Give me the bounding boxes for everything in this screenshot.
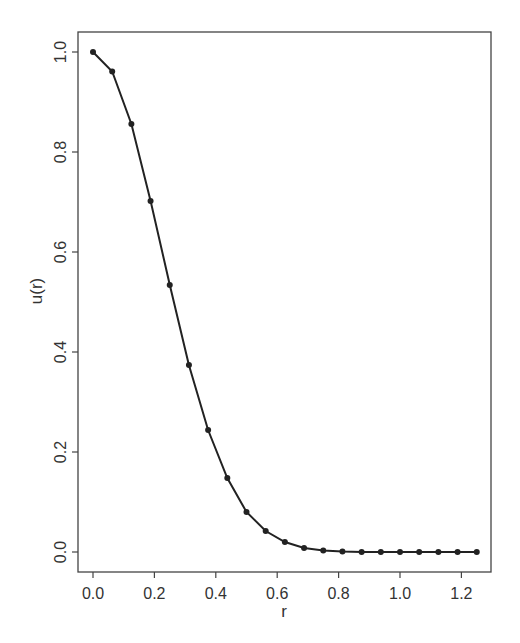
data-point	[359, 549, 365, 555]
data-point	[320, 548, 326, 554]
y-tick-label: 0.0	[52, 541, 69, 563]
y-axis-label: u(r)	[27, 278, 46, 304]
data-point	[263, 528, 269, 534]
x-tick-label: 0.0	[82, 585, 104, 602]
plot-frame	[78, 32, 491, 572]
data-series-line	[93, 52, 477, 552]
data-point	[378, 549, 384, 555]
data-point	[128, 121, 134, 127]
y-tick-label: 0.4	[52, 341, 69, 363]
data-point	[224, 475, 230, 481]
x-axis-label: r	[281, 602, 287, 621]
x-tick-label: 0.2	[143, 585, 165, 602]
y-tick-label: 0.8	[52, 141, 69, 163]
data-point	[148, 198, 154, 204]
data-point	[167, 282, 173, 288]
data-point	[90, 49, 96, 55]
data-point	[455, 549, 461, 555]
data-point	[397, 549, 403, 555]
y-tick-label: 0.2	[52, 441, 69, 463]
data-point	[301, 545, 307, 551]
data-point	[435, 549, 441, 555]
x-tick-label: 0.8	[327, 585, 349, 602]
data-point	[186, 362, 192, 368]
data-point	[416, 549, 422, 555]
data-point	[109, 69, 115, 75]
line-chart: 0.00.20.40.60.81.01.2 0.00.20.40.60.81.0…	[0, 0, 520, 643]
y-tick-label: 1.0	[52, 41, 69, 63]
data-point	[339, 549, 345, 555]
chart-container: 0.00.20.40.60.81.01.2 0.00.20.40.60.81.0…	[0, 0, 520, 643]
data-point	[474, 549, 480, 555]
x-tick-label: 1.0	[389, 585, 411, 602]
x-axis: 0.00.20.40.60.81.01.2	[82, 572, 473, 602]
x-tick-label: 0.6	[266, 585, 288, 602]
x-tick-label: 0.4	[205, 585, 227, 602]
data-point	[205, 427, 211, 433]
data-point	[282, 539, 288, 545]
data-series-markers	[90, 49, 480, 555]
x-tick-label: 1.2	[450, 585, 472, 602]
y-tick-label: 0.6	[52, 241, 69, 263]
data-point	[244, 509, 250, 515]
y-axis: 0.00.20.40.60.81.0	[52, 41, 78, 563]
